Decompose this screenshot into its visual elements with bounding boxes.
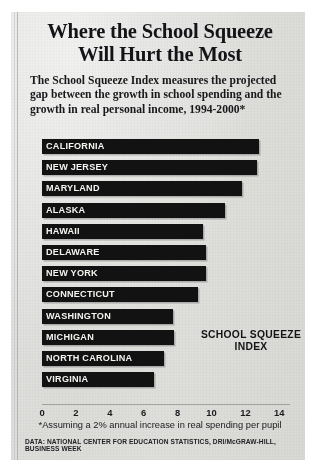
- x-axis-tick-label: 12: [240, 407, 250, 418]
- x-axis-tick-label: 4: [107, 407, 112, 418]
- bar-row: ALASKA: [42, 203, 225, 218]
- bar-label: MARYLAND: [46, 181, 100, 196]
- callout-line-2: INDEX: [199, 341, 303, 353]
- bar-chart: CALIFORNIANEW JERSEYMARYLANDALASKAHAWAII…: [11, 12, 305, 460]
- bar-label: CONNECTICUT: [46, 287, 115, 302]
- bar-label: ALASKA: [46, 203, 85, 218]
- scanned-page: Where the School Squeeze Will Hurt the M…: [0, 0, 317, 472]
- axis-title-callout: SCHOOL SQUEEZE INDEX: [199, 329, 303, 353]
- bar-row: DELAWARE: [42, 245, 206, 260]
- x-axis-tick-label: 14: [274, 407, 284, 418]
- bar-row: NEW JERSEY: [42, 160, 257, 175]
- bar-label: NORTH CAROLINA: [46, 351, 132, 366]
- bar-label: CALIFORNIA: [46, 139, 105, 154]
- bar-row: VIRGINIA: [42, 372, 154, 387]
- bar-label: DELAWARE: [46, 245, 100, 260]
- bar-row: HAWAII: [42, 224, 203, 239]
- paper-background: Where the School Squeeze Will Hurt the M…: [11, 12, 305, 460]
- bar-row: WASHINGTON: [42, 309, 173, 324]
- x-axis-tick-label: 10: [206, 407, 216, 418]
- bar-row: MICHIGAN: [42, 330, 174, 345]
- bar-row: MARYLAND: [42, 181, 242, 196]
- footnote: *Assuming a 2% annual increase in real s…: [25, 420, 295, 430]
- bar-label: VIRGINIA: [46, 372, 88, 387]
- x-axis-tick-label: 2: [73, 407, 78, 418]
- callout-line-1: SCHOOL SQUEEZE: [199, 329, 303, 341]
- bar-row: NEW YORK: [42, 266, 206, 281]
- bar-row: NORTH CAROLINA: [42, 351, 164, 366]
- bar-row: CONNECTICUT: [42, 287, 198, 302]
- bar-label: HAWAII: [46, 224, 80, 239]
- bar-row: CALIFORNIA: [42, 139, 259, 154]
- x-axis-tick-label: 8: [175, 407, 180, 418]
- bar-label: NEW YORK: [46, 266, 98, 281]
- x-axis-tick-label: 0: [39, 407, 44, 418]
- data-source-line: DATA: NATIONAL CENTER FOR EDUCATION STAT…: [25, 438, 299, 452]
- bar-label: WASHINGTON: [46, 309, 111, 324]
- bar-label: NEW JERSEY: [46, 160, 108, 175]
- x-axis-tick-label: 6: [141, 407, 146, 418]
- bar-label: MICHIGAN: [46, 330, 94, 345]
- x-axis-line: [42, 404, 290, 405]
